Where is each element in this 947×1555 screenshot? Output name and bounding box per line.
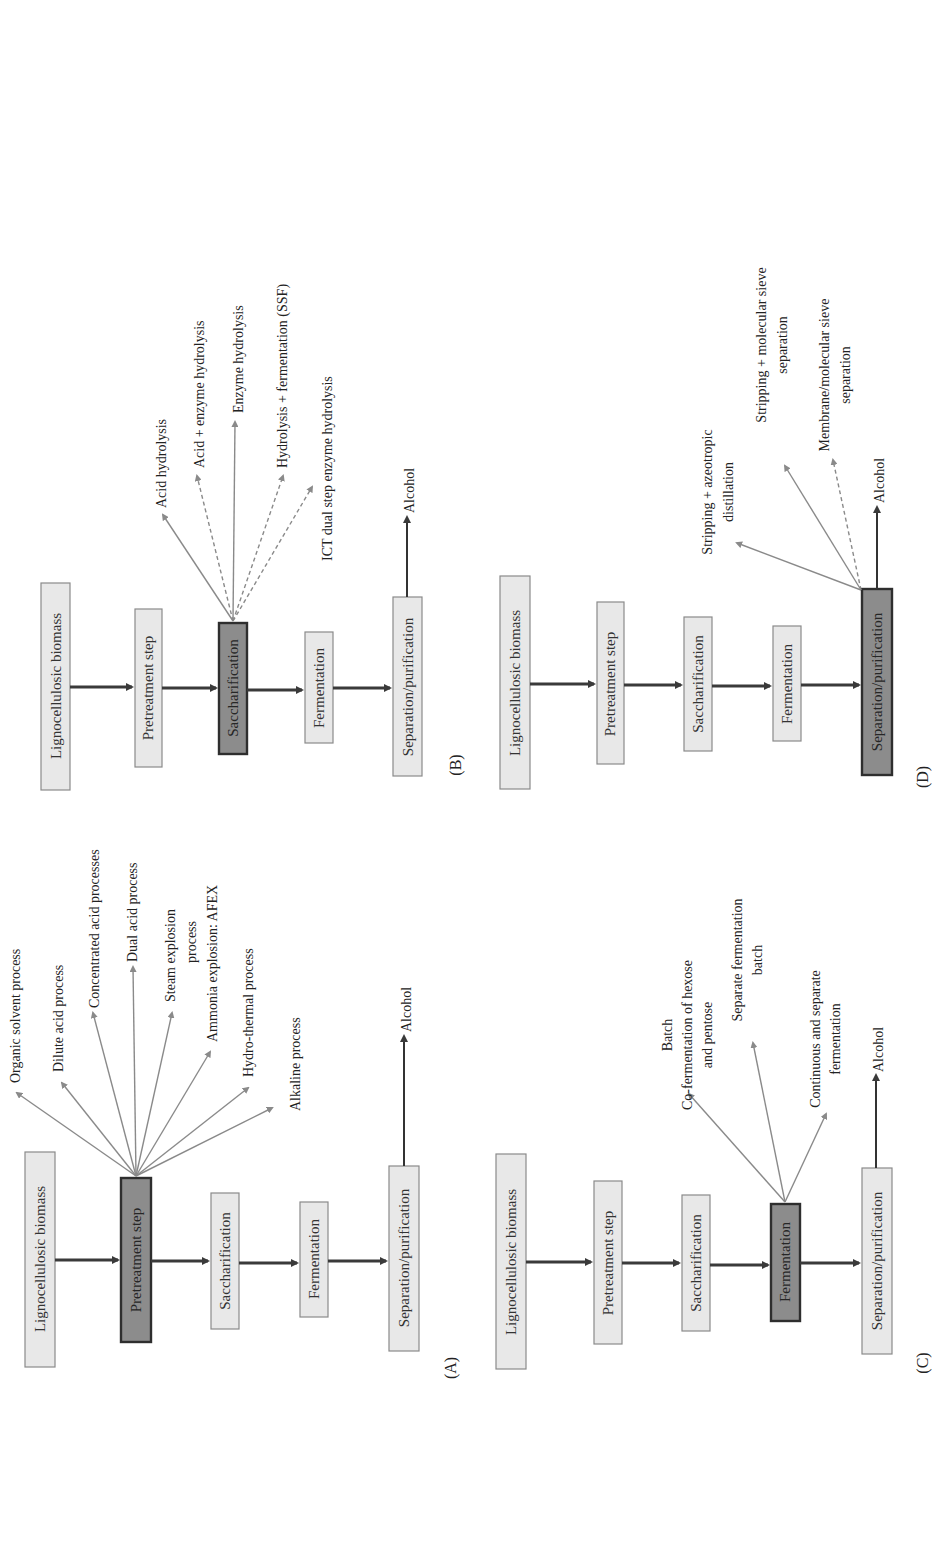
step-label: Lignocellulosic biomass — [48, 613, 64, 759]
option-label: Organic solvent process — [8, 949, 23, 1083]
step-label: Fermentation — [777, 1222, 793, 1302]
step-label: Separation/purification — [396, 1188, 412, 1327]
option-label: Ammonia explosion: AFEX — [205, 885, 220, 1042]
panel-label-c: (C) — [914, 1352, 932, 1373]
step-label: Saccharification — [688, 1214, 704, 1312]
step-box-saccharification-highlighted: Saccharification — [219, 623, 247, 754]
figure-canvas: Lignocellulosic biomass Pretreatment ste… — [0, 0, 947, 1555]
step-label: Fermentation — [779, 644, 795, 724]
step-label: Lignocellulosic biomass — [507, 610, 523, 756]
branch-arrows — [737, 460, 861, 590]
option-label: Separate fermentation — [730, 898, 745, 1021]
step-box-separation: Separation/purification — [393, 597, 422, 776]
step-box-fermentation: Fermentation — [305, 632, 333, 743]
option-label: batch — [750, 945, 765, 975]
step-box-biomass: Lignocellulosic biomass — [500, 576, 530, 789]
step-box-biomass: Lignocellulosic biomass — [496, 1154, 526, 1369]
step-label: Saccharification — [217, 1212, 233, 1310]
step-label: Saccharification — [690, 635, 706, 733]
step-box-fermentation: Fermentation — [300, 1202, 328, 1317]
option-label: Acid + enzyme hydrolysis — [192, 321, 207, 468]
step-box-saccharification: Saccharification — [211, 1193, 239, 1329]
option-label: Stripping + molecular sieve — [754, 267, 769, 422]
option-label: Continuous and separate — [808, 970, 823, 1108]
panel-c: Lignocellulosic biomass Pretreatment ste… — [496, 898, 932, 1373]
option-label: and pentose — [700, 1002, 715, 1068]
option-label: Dilute acid process — [51, 965, 66, 1072]
step-box-biomass: Lignocellulosic biomass — [25, 1152, 55, 1367]
option-label: separation — [838, 346, 853, 404]
option-label: Concentrated acid processes — [87, 849, 102, 1008]
option-label: ICT dual step enzyme hydrolysis — [320, 376, 335, 561]
step-box-pretreatment: Pretreatment step — [135, 609, 162, 767]
output-label: Alcohol — [872, 458, 887, 503]
option-label: separation — [775, 316, 790, 374]
step-box-separation-highlighted: Separation/purification — [862, 589, 892, 775]
panel-label-d: (D) — [914, 766, 932, 788]
option-label: Enzyme hydrolysis — [231, 305, 246, 413]
step-box-pretreatment: Pretreatment step — [594, 1181, 622, 1344]
step-label: Separation/purification — [869, 1191, 885, 1330]
option-label: distillation — [721, 462, 736, 522]
output-label: Alcohol — [871, 1027, 886, 1072]
step-box-saccharification: Saccharification — [684, 617, 712, 751]
option-label: Hydro-thermal process — [241, 948, 256, 1077]
option-label: fermentation — [828, 1003, 843, 1075]
option-label: Hydrolysis + fermentation (SSF) — [275, 284, 291, 468]
option-label: Membrane/molecular sieve — [817, 299, 832, 452]
panel-label-b: (B) — [447, 754, 465, 775]
step-box-biomass: Lignocellulosic biomass — [41, 583, 70, 790]
panel-label-a: (A) — [442, 1357, 460, 1379]
step-label: Separation/purification — [869, 612, 885, 751]
step-label: Fermentation — [311, 648, 327, 728]
option-label: Acid hydrolysis — [154, 419, 169, 508]
option-label: Co-fermentation of hexose — [680, 960, 695, 1110]
step-label: Separation/purification — [400, 617, 416, 756]
option-label: Stripping + azeotropic — [700, 429, 715, 554]
step-label: Fermentation — [306, 1219, 322, 1299]
option-label: process — [184, 921, 199, 963]
output-label: Alcohol — [402, 468, 417, 513]
step-label: Pretreatment step — [128, 1208, 144, 1313]
panel-d: Lignocellulosic biomass Pretreatment ste… — [500, 267, 932, 789]
output-label: Alcohol — [399, 987, 414, 1032]
step-box-separation: Separation/purification — [862, 1168, 892, 1354]
step-label: Lignocellulosic biomass — [503, 1189, 519, 1335]
step-label: Pretreatment step — [140, 636, 156, 741]
option-label: Batch — [660, 1019, 675, 1052]
step-label: Pretreatment step — [602, 632, 618, 737]
panel-b: Lignocellulosic biomass Pretreatment ste… — [41, 284, 465, 790]
step-box-fermentation: Fermentation — [773, 626, 801, 741]
step-box-fermentation-highlighted: Fermentation — [771, 1204, 800, 1321]
step-label: Saccharification — [225, 639, 241, 737]
option-label: Dual acid process — [125, 862, 140, 962]
step-box-pretreatment: Pretreatment step — [597, 602, 624, 764]
step-box-pretreatment-highlighted: Pretreatment step — [121, 1178, 151, 1342]
step-label: Lignocellulosic biomass — [32, 1186, 48, 1332]
option-label: Alkaline process — [288, 1017, 303, 1111]
option-label: Steam explosion — [163, 909, 178, 1002]
panel-a: Lignocellulosic biomass Pretreatment ste… — [8, 849, 460, 1379]
step-label: Pretreatment step — [600, 1211, 616, 1316]
step-box-saccharification: Saccharification — [682, 1195, 710, 1331]
step-box-separation: Separation/purification — [389, 1166, 419, 1351]
